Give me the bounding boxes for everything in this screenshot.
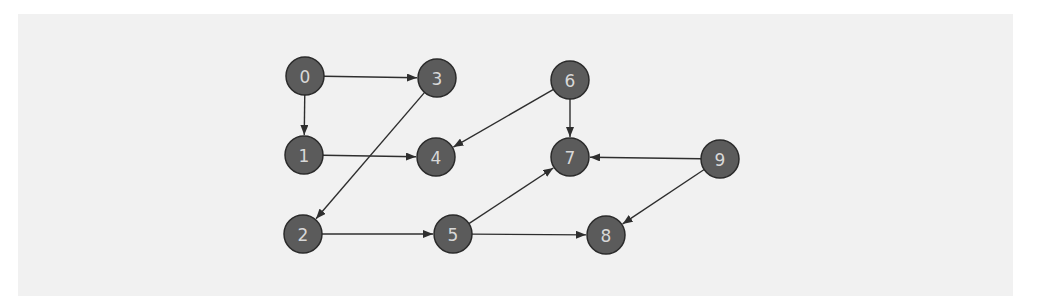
node-label: 6 [565, 71, 576, 91]
node-label: 1 [299, 146, 310, 166]
graph-node-7: 7 [551, 138, 589, 176]
directed-graph: 0123456789 [0, 0, 1041, 304]
edge-line [324, 76, 417, 77]
node-label: 2 [298, 225, 309, 245]
graph-node-9: 9 [701, 140, 739, 178]
node-label: 5 [448, 225, 459, 245]
node-label: 3 [432, 69, 443, 89]
edge-0-to-3 [324, 76, 417, 77]
edge-line [590, 157, 701, 158]
node-label: 8 [601, 226, 612, 246]
edge-line [469, 168, 553, 224]
edge-line [453, 89, 553, 147]
graph-node-4: 4 [417, 138, 455, 176]
edges-layer [304, 76, 704, 235]
edge-line [472, 234, 586, 235]
graph-node-1: 1 [285, 136, 323, 174]
edge-line [623, 170, 705, 224]
node-label: 0 [300, 67, 311, 87]
edge-9-to-7 [590, 157, 701, 158]
graph-node-3: 3 [418, 59, 456, 97]
node-label: 7 [565, 148, 576, 168]
edge-0-to-1 [304, 95, 305, 135]
edge-6-to-4 [453, 89, 553, 147]
edge-5-to-8 [472, 234, 586, 235]
edge-5-to-7 [469, 168, 553, 224]
graph-node-0: 0 [286, 57, 324, 95]
edge-9-to-8 [623, 170, 705, 224]
graph-node-6: 6 [551, 61, 589, 99]
node-label: 9 [715, 150, 726, 170]
graph-node-5: 5 [434, 215, 472, 253]
diagram-canvas: 0123456789 [0, 0, 1041, 304]
node-label: 4 [431, 148, 442, 168]
edge-line [304, 95, 305, 135]
graph-node-2: 2 [284, 215, 322, 253]
graph-node-8: 8 [587, 216, 625, 254]
